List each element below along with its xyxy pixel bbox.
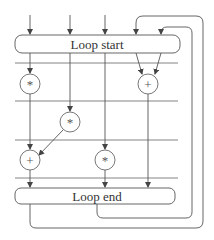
node-n1-multiply: * [20, 74, 40, 94]
dataflow-diagram: Loop start * + * + [0, 0, 214, 240]
data-edges [30, 53, 161, 187]
node-n5-multiply: * [95, 150, 115, 170]
multiply-icon: * [102, 153, 109, 168]
plus-icon: + [144, 77, 151, 92]
loop-end-block: Loop end [15, 188, 175, 204]
loop-start-label: Loop start [70, 37, 123, 52]
node-n4-add: + [20, 150, 40, 170]
input-arrows [30, 15, 105, 34]
loop-end-label: Loop end [72, 189, 122, 204]
multiply-icon: * [27, 77, 34, 92]
loop-start-block: Loop start [15, 35, 180, 53]
node-n3-multiply: * [60, 112, 80, 132]
multiply-icon: * [67, 115, 74, 130]
plus-icon: + [26, 153, 33, 168]
node-n2-add: + [138, 74, 158, 94]
